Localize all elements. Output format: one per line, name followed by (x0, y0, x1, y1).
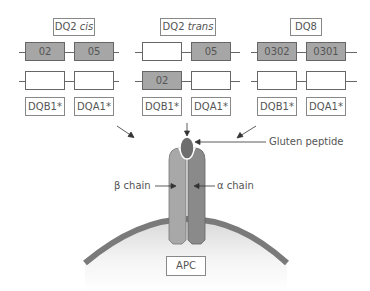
alpha-chain-label: α chain (217, 180, 254, 191)
gene-dqa1-allele: 0301 (306, 42, 346, 61)
apc-label: APC (166, 256, 206, 276)
gluten-peptide-label: Gluten peptide (269, 136, 344, 147)
label-dqb1: DQB1* (25, 97, 65, 116)
label-dqb1: DQB1* (257, 97, 297, 116)
alpha-chain-shape (188, 148, 205, 244)
group-title-dq2-cis: DQ2 cis (53, 18, 95, 36)
gene-dqb1-empty (25, 71, 65, 90)
gene-dqb1-allele: 0302 (257, 42, 297, 61)
gene-dqa1-allele: 05 (191, 42, 231, 61)
gene-dqb1-allele: 02 (25, 42, 65, 61)
beta-chain-shape (169, 148, 186, 244)
gene-dqa1-empty (74, 71, 114, 90)
group-title-dq8: DQ8 (290, 18, 322, 36)
group-title-dq2-trans: DQ2 trans (160, 18, 216, 36)
label-dqa1: DQA1* (74, 97, 114, 116)
gene-dqa1-empty (306, 71, 346, 90)
gene-dqb1-empty (257, 71, 297, 90)
label-dqa1: DQA1* (191, 97, 231, 116)
beta-chain-label: β chain (114, 180, 151, 191)
label-dqa1: DQA1* (306, 97, 346, 116)
gene-dqa1-empty (191, 71, 231, 90)
label-dqb1: DQB1* (142, 97, 182, 116)
gene-dqa1-allele: 05 (74, 42, 114, 61)
gene-dqb1-allele: 02 (142, 71, 182, 90)
gluten-peptide-shape (180, 137, 194, 159)
gene-dqb1-empty (142, 42, 182, 61)
